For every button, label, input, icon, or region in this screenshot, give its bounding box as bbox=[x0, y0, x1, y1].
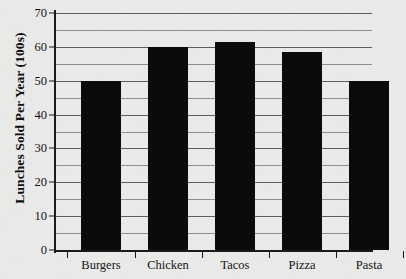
x-axis-label-pasta: Pasta bbox=[332, 258, 406, 273]
y-tick-label: 0 bbox=[21, 243, 47, 258]
x-tick-mark bbox=[269, 251, 270, 258]
bar-burgers bbox=[81, 81, 121, 250]
gridline-major bbox=[55, 47, 372, 48]
y-tick-label: 70 bbox=[21, 6, 47, 21]
bar-tacos bbox=[215, 42, 255, 250]
bar-pizza bbox=[282, 52, 322, 250]
y-tick-label: 50 bbox=[21, 73, 47, 88]
x-axis-label-burgers: Burgers bbox=[64, 258, 138, 273]
y-tick-label: 10 bbox=[21, 209, 47, 224]
y-tick-label: 20 bbox=[21, 175, 47, 190]
bar-pasta bbox=[349, 81, 389, 250]
x-axis-label-tacos: Tacos bbox=[198, 258, 272, 273]
y-tick-mark bbox=[49, 46, 55, 47]
y-tick-label: 30 bbox=[21, 141, 47, 156]
y-tick-mark bbox=[49, 216, 55, 217]
x-tick-mark bbox=[202, 251, 203, 258]
x-axis-label-pizza: Pizza bbox=[265, 258, 339, 273]
gridline-major bbox=[55, 13, 372, 14]
x-axis-line bbox=[54, 250, 373, 252]
x-tick-mark bbox=[135, 251, 136, 258]
y-tick-mark bbox=[49, 114, 55, 115]
y-tick-label: 60 bbox=[21, 39, 47, 54]
x-tick-mark bbox=[403, 251, 404, 258]
plot-area bbox=[55, 13, 372, 250]
y-tick-mark bbox=[49, 182, 55, 183]
bar-chicken bbox=[148, 47, 188, 250]
y-tick-mark bbox=[49, 80, 55, 81]
gridline-minor bbox=[55, 64, 372, 65]
gridline-minor bbox=[55, 30, 372, 31]
y-tick-label: 40 bbox=[21, 107, 47, 122]
y-tick-mark bbox=[49, 250, 55, 251]
y-tick-mark bbox=[49, 148, 55, 149]
y-tick-mark bbox=[49, 13, 55, 14]
x-tick-mark bbox=[67, 251, 68, 258]
x-axis-label-chicken: Chicken bbox=[131, 258, 205, 273]
x-tick-mark bbox=[336, 251, 337, 258]
